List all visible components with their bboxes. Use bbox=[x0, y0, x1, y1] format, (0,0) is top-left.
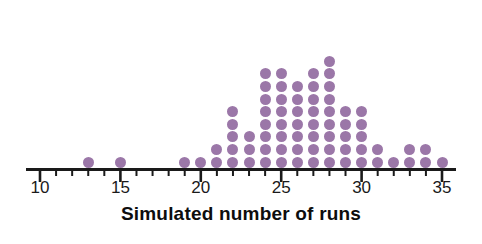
data-dot bbox=[292, 119, 303, 130]
data-dot bbox=[420, 144, 431, 155]
data-dot bbox=[324, 106, 335, 117]
data-dot bbox=[372, 157, 383, 168]
data-dot bbox=[260, 94, 271, 105]
data-dot bbox=[83, 157, 94, 168]
data-dot bbox=[227, 119, 238, 130]
data-dot bbox=[308, 94, 319, 105]
data-dot bbox=[276, 106, 287, 117]
data-dot bbox=[260, 131, 271, 142]
data-dot bbox=[324, 131, 335, 142]
data-dot bbox=[260, 144, 271, 155]
data-dot bbox=[260, 119, 271, 130]
data-dot bbox=[388, 157, 399, 168]
data-dot bbox=[308, 106, 319, 117]
data-dot bbox=[276, 131, 287, 142]
data-dot bbox=[324, 56, 335, 67]
data-dot bbox=[292, 94, 303, 105]
data-dot bbox=[356, 157, 367, 168]
data-dot bbox=[276, 119, 287, 130]
data-dot bbox=[340, 131, 351, 142]
data-dot bbox=[179, 157, 190, 168]
data-dot bbox=[292, 144, 303, 155]
data-dot bbox=[260, 157, 271, 168]
data-dot bbox=[324, 94, 335, 105]
data-dot bbox=[276, 68, 287, 79]
x-axis-tick-label: 10 bbox=[31, 178, 50, 198]
data-dot bbox=[324, 144, 335, 155]
data-dot bbox=[292, 81, 303, 92]
data-dot bbox=[420, 157, 431, 168]
data-dot bbox=[115, 157, 126, 168]
x-axis-tick-label: 35 bbox=[433, 178, 452, 198]
data-dot bbox=[340, 157, 351, 168]
data-dot bbox=[292, 157, 303, 168]
data-dot bbox=[356, 131, 367, 142]
data-dot bbox=[276, 144, 287, 155]
data-dot bbox=[340, 119, 351, 130]
data-dot bbox=[308, 157, 319, 168]
x-axis-tick-label: 20 bbox=[191, 178, 210, 198]
data-dot bbox=[324, 68, 335, 79]
data-dot bbox=[308, 144, 319, 155]
data-dot bbox=[324, 157, 335, 168]
data-dot bbox=[227, 131, 238, 142]
data-dot bbox=[308, 81, 319, 92]
data-dot bbox=[356, 106, 367, 117]
data-dot bbox=[404, 144, 415, 155]
data-dot bbox=[276, 81, 287, 92]
x-axis-tick-label: 25 bbox=[272, 178, 291, 198]
data-dot bbox=[260, 81, 271, 92]
x-axis-tick-label: 30 bbox=[352, 178, 371, 198]
data-dot bbox=[308, 68, 319, 79]
x-axis-tick-label: 15 bbox=[111, 178, 130, 198]
data-dot bbox=[404, 157, 415, 168]
data-dot bbox=[260, 68, 271, 79]
data-dot bbox=[356, 119, 367, 130]
data-dot bbox=[195, 157, 206, 168]
data-dot bbox=[244, 144, 255, 155]
data-dot bbox=[227, 144, 238, 155]
data-dot bbox=[340, 144, 351, 155]
dot-stack-layer bbox=[0, 0, 482, 175]
data-dot bbox=[324, 81, 335, 92]
data-dot bbox=[276, 94, 287, 105]
data-dot bbox=[227, 106, 238, 117]
dot-plot-figure: 101520253035 Simulated number of runs bbox=[0, 0, 482, 244]
data-dot bbox=[437, 157, 448, 168]
data-dot bbox=[356, 144, 367, 155]
data-dot bbox=[340, 106, 351, 117]
data-dot bbox=[308, 119, 319, 130]
data-dot bbox=[211, 144, 222, 155]
data-dot bbox=[292, 106, 303, 117]
data-dot bbox=[244, 157, 255, 168]
x-axis-title: Simulated number of runs bbox=[0, 203, 482, 225]
data-dot bbox=[324, 119, 335, 130]
data-dot bbox=[211, 157, 222, 168]
data-dot bbox=[292, 131, 303, 142]
data-dot bbox=[260, 106, 271, 117]
data-dot bbox=[308, 131, 319, 142]
data-dot bbox=[276, 157, 287, 168]
data-dot bbox=[372, 144, 383, 155]
data-dot bbox=[244, 131, 255, 142]
data-dot bbox=[227, 157, 238, 168]
